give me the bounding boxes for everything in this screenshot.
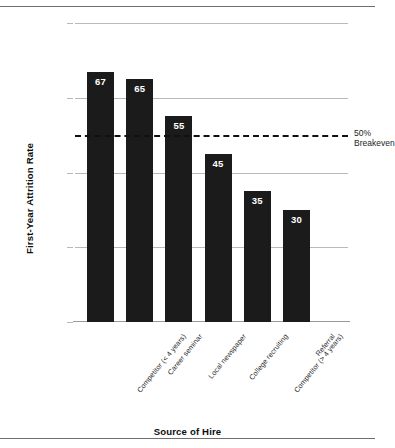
bar[interactable]: 55 [165, 116, 192, 322]
y-axis-tick-mark [67, 322, 73, 323]
bar-chart-figure: First-Year Attrition Rate 020406080% 676… [0, 7, 375, 437]
bar[interactable]: 67 [87, 72, 114, 322]
bar-value-label: 67 [87, 76, 114, 87]
bar-value-label: 35 [244, 195, 271, 206]
y-axis-tick-mark [67, 173, 73, 174]
bar-value-label: 65 [126, 83, 153, 94]
breakeven-dashed-line [75, 135, 348, 137]
y-axis-tick-mark [67, 98, 73, 99]
y-axis-title-text: First-Year Attrition Rate [25, 142, 36, 253]
plot-area: 020406080% 676555453530 [75, 23, 348, 322]
x-axis-tick-label: College recruiting [247, 332, 290, 382]
breakeven-annotation-label: 50% Breakeven [354, 128, 395, 149]
bar[interactable]: 35 [244, 191, 271, 322]
x-axis-title: Source of Hire [0, 426, 375, 437]
bar-series: 676555453530 [75, 23, 348, 322]
bar[interactable]: 45 [205, 154, 232, 322]
page-bottom-rule [0, 438, 375, 439]
y-axis-tick-mark [67, 23, 73, 24]
x-axis-tick-label: Local newspaper [207, 332, 249, 380]
x-axis-tick-label: Competitor (> 4 years) [292, 332, 345, 394]
breakeven-caption-text: Breakeven [354, 138, 395, 148]
y-axis-title: First-Year Attrition Rate [22, 103, 38, 293]
y-axis-tick-mark [67, 247, 73, 248]
x-axis-tick-labels: Competitor (< 4 years)Career seminarLoca… [75, 329, 348, 424]
bar-value-label: 45 [205, 158, 232, 169]
breakeven-value-text: 50% [354, 128, 395, 138]
bar[interactable]: 65 [126, 79, 153, 322]
bar[interactable]: 30 [283, 210, 310, 322]
bar-value-label: 30 [283, 214, 310, 225]
bar-value-label: 55 [165, 120, 192, 131]
